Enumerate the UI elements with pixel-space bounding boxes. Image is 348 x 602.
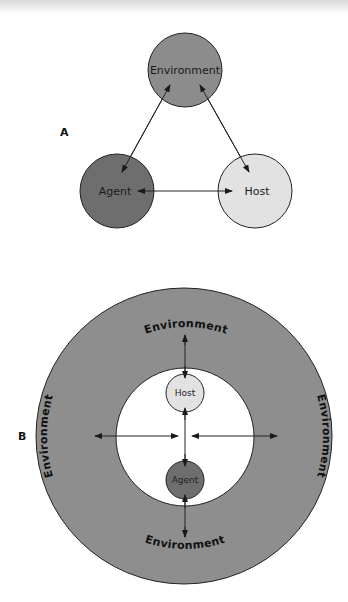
node-environment: Environment [148, 33, 222, 107]
node-agent-b-label: Agent [172, 475, 199, 485]
panel-a-label: A [60, 126, 69, 139]
node-host-b-label: Host [175, 388, 196, 398]
node-host-label: Host [244, 185, 270, 198]
panel-a: A Environment Agent Host [60, 33, 292, 228]
node-environment-label: Environment [150, 64, 221, 77]
arrow-environment-host-overlay [200, 85, 249, 172]
arrow-environment-agent-overlay [122, 85, 170, 172]
node-host-b: Host [166, 374, 204, 412]
panel-b: B Environment Environment Environment En… [18, 288, 333, 584]
node-agent-b: Agent [166, 461, 204, 499]
diagram-canvas: A Environment Agent Host B Environment [0, 0, 348, 602]
panel-b-label: B [18, 430, 26, 443]
node-agent-label: Agent [99, 185, 132, 198]
